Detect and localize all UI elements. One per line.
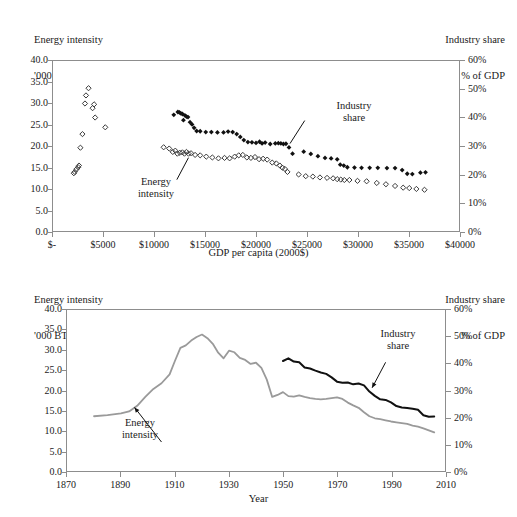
bot-ytick-left-label: 25.0: [45, 365, 63, 375]
bot-xtick-label: 1990: [382, 480, 402, 490]
bot-ytick-left-label: 40.0: [45, 304, 63, 314]
top-xtick-mark: [307, 232, 308, 237]
top-right-axis-title-line1: Industry share: [445, 34, 505, 46]
bot-ytick-right-label: 20%: [454, 413, 472, 423]
industry-share-marker: [245, 140, 250, 145]
industry-share-marker: [393, 166, 398, 171]
top-ytick-left-label: 15.0: [31, 163, 49, 173]
top-xtick-mark: [460, 232, 461, 237]
bot-ytick-left-mark: [61, 411, 66, 412]
industry-share-marker: [375, 165, 380, 170]
annotation-industry-share-top: Industryshare: [318, 100, 390, 124]
energy-intensity-marker: [86, 86, 91, 91]
bot-ytick-right-mark: [446, 391, 451, 392]
industry-share-marker: [181, 118, 186, 123]
bot-ytick-left-label: 15.0: [45, 406, 63, 416]
top-xtick-mark: [358, 232, 359, 237]
energy-intensity-marker: [422, 187, 427, 192]
industry-share-marker: [215, 130, 220, 135]
top-ytick-left-label: 40.0: [31, 55, 49, 65]
energy-intensity-marker: [227, 156, 232, 161]
bot-xtick-mark: [392, 472, 393, 477]
top-xtick-mark: [52, 232, 53, 237]
industry-share-marker: [352, 165, 357, 170]
energy-intensity-marker: [355, 178, 360, 183]
energy-intensity-marker: [324, 175, 329, 180]
bottom-right-axis-title: Industry share % of GDP: [445, 270, 505, 366]
energy-intensity-marker: [392, 183, 397, 188]
bottom-x-axis-label: Year: [0, 493, 517, 504]
top-left-axis-title-line1: Energy intensity: [34, 34, 104, 46]
energy-intensity-marker: [82, 101, 87, 106]
top-xtick-mark: [154, 232, 155, 237]
top-ytick-left-label: 35.0: [31, 77, 49, 87]
bot-ytick-left-label: 35.0: [45, 324, 63, 334]
industry-share-marker: [241, 138, 246, 143]
top-ytick-right-label: 60%: [468, 55, 486, 65]
energy-intensity-marker: [167, 146, 172, 151]
bot-ytick-right-label: 10%: [454, 440, 472, 450]
energy-intensity-marker: [303, 174, 308, 179]
bot-ytick-left-mark: [61, 370, 66, 371]
bot-ytick-left-mark: [61, 309, 66, 310]
energy-intensity-marker: [317, 175, 322, 180]
energy-intensity-marker: [204, 154, 209, 159]
industry-share-marker: [367, 165, 372, 170]
bot-ytick-left-mark: [61, 350, 66, 351]
top-ytick-right-label: 20%: [468, 170, 486, 180]
bot-xtick-label: 1890: [110, 480, 130, 490]
bot-ytick-right-mark: [446, 445, 451, 446]
bot-xtick-label: 1930: [219, 480, 239, 490]
top-ytick-left-mark: [47, 211, 52, 212]
plot-area-scatter: [52, 60, 460, 232]
industry-share-marker: [359, 165, 364, 170]
energy-intensity-marker: [401, 185, 406, 190]
industry-share-marker: [338, 162, 343, 167]
industry-share-marker: [316, 154, 321, 159]
industry-share-marker: [405, 171, 410, 176]
energy-intensity-marker: [222, 155, 227, 160]
bot-ytick-right-mark: [446, 418, 451, 419]
panel-scatter-gdp: Energy intensity '000 BTU/2000$ Industry…: [0, 0, 517, 262]
bot-ytick-left-label: 10.0: [45, 426, 63, 436]
top-x-axis-label: GDP per capita (2000$): [0, 247, 517, 258]
industry-share-marker: [290, 151, 295, 156]
energy-intensity-marker: [216, 156, 221, 161]
bot-xtick-mark: [229, 472, 230, 477]
bot-ytick-right-label: 30%: [454, 386, 472, 396]
bot-xtick-mark: [66, 472, 67, 477]
top-ytick-left-mark: [47, 103, 52, 104]
industry-share-marker: [410, 172, 415, 177]
industry-share-marker: [385, 166, 390, 171]
top-ytick-left-mark: [47, 125, 52, 126]
top-ytick-left-label: 30.0: [31, 98, 49, 108]
industry-share-marker: [250, 140, 255, 145]
bot-xtick-mark: [175, 472, 176, 477]
top-ytick-right-mark: [460, 203, 465, 204]
industry-share-marker: [423, 170, 428, 175]
energy-intensity-marker: [374, 180, 379, 185]
top-ytick-right-mark: [460, 89, 465, 90]
top-ytick-left-mark: [47, 60, 52, 61]
industry-share-marker: [209, 130, 214, 135]
industry-share-marker: [234, 132, 239, 137]
industry-share-marker: [230, 130, 235, 135]
top-xtick-mark: [205, 232, 206, 237]
industry-share-marker: [287, 145, 292, 150]
energy-intensity-marker: [78, 145, 83, 150]
industry-share-marker: [335, 157, 340, 162]
bot-ytick-left-label: 30.0: [45, 345, 63, 355]
bot-xtick-mark: [337, 472, 338, 477]
top-ytick-right-mark: [460, 175, 465, 176]
bot-ytick-right-mark: [446, 363, 451, 364]
energy-intensity-marker: [310, 174, 315, 179]
top-xtick-mark: [256, 232, 257, 237]
industry-share-marker: [198, 129, 203, 134]
top-ytick-left-mark: [47, 146, 52, 147]
energy-intensity-marker: [93, 115, 98, 120]
industry-share-marker: [323, 156, 328, 161]
top-ytick-left-label: 10.0: [31, 184, 49, 194]
industry-share-marker: [418, 170, 423, 175]
energy-intensity-marker: [103, 125, 108, 130]
industry-share-marker: [400, 168, 405, 173]
